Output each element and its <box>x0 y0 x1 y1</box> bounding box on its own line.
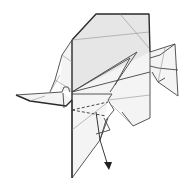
origami-diagram <box>0 0 186 189</box>
paper-fill <box>16 14 178 178</box>
